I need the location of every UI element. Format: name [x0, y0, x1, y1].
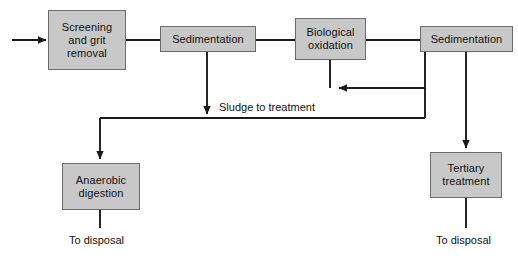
node-tertiary-treatment[interactable]: Tertiary treatment	[430, 152, 502, 198]
node-label-biological-oxidation: Biological oxidation	[303, 26, 357, 52]
edge-label-to-disposal-right: To disposal	[436, 234, 491, 247]
node-screening-and-grit-removal[interactable]: Screening and grit removal	[48, 10, 126, 70]
node-sedimentation-secondary[interactable]: Sedimentation	[420, 26, 513, 52]
node-label-sedimentation-primary: Sedimentation	[169, 33, 247, 46]
node-label-anaerobic-digestion: Anaerobic digestion	[73, 174, 129, 200]
edge-label-to-disposal-left: To disposal	[69, 234, 124, 247]
node-anaerobic-digestion[interactable]: Anaerobic digestion	[62, 163, 140, 210]
node-label-sedimentation-secondary: Sedimentation	[428, 33, 506, 46]
node-sedimentation-primary[interactable]: Sedimentation	[160, 26, 256, 52]
node-label-screening-and-grit-removal: Screening and grit removal	[59, 21, 115, 60]
process-flow-diagram: Screening and grit removal Sedimentation…	[0, 0, 518, 260]
node-biological-oxidation[interactable]: Biological oxidation	[295, 18, 366, 60]
edge-label-sludge-to-treatment: Sludge to treatment	[219, 101, 315, 114]
node-label-tertiary-treatment: Tertiary treatment	[439, 162, 492, 188]
